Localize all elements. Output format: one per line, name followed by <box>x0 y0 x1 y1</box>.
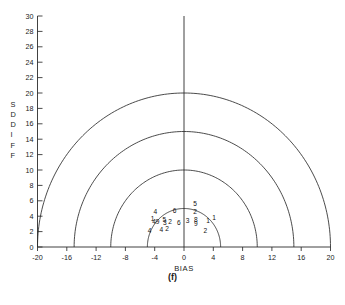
chart-plot-area: 44149453226635289112 -20-16-12-8-4048121… <box>0 0 345 305</box>
data-point-label: 2 <box>203 227 207 234</box>
y-tick-label: 0 <box>30 243 34 252</box>
y-tick-label: 14 <box>26 135 34 144</box>
x-tick-label: -20 <box>32 253 42 262</box>
y-tick-label: 20 <box>26 89 34 98</box>
y-tick-label: 30 <box>26 12 34 21</box>
data-point-label: 9 <box>156 218 160 225</box>
y-tick-label: 26 <box>26 42 34 51</box>
y-tick-label: 8 <box>30 181 34 190</box>
figure-panel: 44149453226635289112 -20-16-12-8-4048121… <box>0 0 345 305</box>
data-point-label: 4 <box>148 227 152 234</box>
data-point-label: 4 <box>159 226 163 233</box>
x-tick-label: 8 <box>241 253 245 262</box>
x-tick-label: -16 <box>62 253 72 262</box>
y-tick-label: 18 <box>26 104 34 113</box>
y-tick-label: 16 <box>26 119 34 128</box>
y-tick-label: 22 <box>26 73 34 82</box>
x-tick-label: 20 <box>327 253 335 262</box>
y-axis-title-letter: F <box>11 141 16 150</box>
data-point-label: 6 <box>173 207 177 214</box>
x-tick-label: 4 <box>211 253 215 262</box>
x-tick-label: 0 <box>182 253 186 262</box>
data-point-label: 5 <box>193 200 197 207</box>
data-point-label: 2 <box>193 208 197 215</box>
y-tick-label: 2 <box>30 227 34 236</box>
data-point-labels: 44149453226635289112 <box>148 200 216 234</box>
figure-caption: (f) <box>0 272 345 282</box>
y-tick-label: 28 <box>26 27 34 36</box>
y-tick-label: 6 <box>30 196 34 205</box>
x-tick-label: 16 <box>297 253 305 262</box>
data-point-label: 1 <box>212 214 216 221</box>
data-point-label: 2 <box>168 218 172 225</box>
y-tick-label: 10 <box>26 166 34 175</box>
y-axis-title-letter: F <box>11 151 16 160</box>
y-tick-label: 4 <box>30 212 34 221</box>
y-axis-title-letter: S <box>11 100 16 109</box>
data-point-label: 9 <box>194 220 198 227</box>
data-point-label: 6 <box>177 219 181 226</box>
x-tick-label: 12 <box>268 253 276 262</box>
x-tick-label: -4 <box>151 253 157 262</box>
y-axis-title-letter: D <box>11 110 16 119</box>
x-tick-label: -8 <box>122 253 128 262</box>
y-axis-title-letter: I <box>11 130 13 139</box>
data-point-label: 1 <box>206 217 210 224</box>
y-axis-title-letter: D <box>11 120 16 129</box>
data-point-label: 3 <box>186 217 190 224</box>
y-tick-label: 12 <box>26 150 34 159</box>
y-tick-label: 24 <box>26 58 34 67</box>
data-point-label: 2 <box>165 225 169 232</box>
x-tick-label: -12 <box>91 253 101 262</box>
